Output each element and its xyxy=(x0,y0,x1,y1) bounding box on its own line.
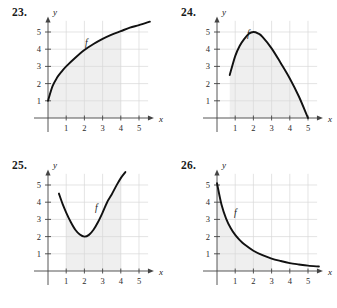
svg-text:2: 2 xyxy=(82,276,86,286)
x-axis-label: x xyxy=(158,267,163,277)
svg-text:5: 5 xyxy=(37,180,41,190)
svg-text:5: 5 xyxy=(306,123,310,133)
y-axis-label: y xyxy=(221,7,226,17)
svg-text:4: 4 xyxy=(37,44,42,54)
curve-label-f: f xyxy=(95,203,99,213)
svg-text:4: 4 xyxy=(288,123,293,133)
y-axis-label: y xyxy=(52,7,57,17)
panel-25: 25. 1234512345xyf xyxy=(0,153,168,307)
svg-text:4: 4 xyxy=(206,197,211,207)
svg-text:2: 2 xyxy=(37,232,41,242)
svg-text:4: 4 xyxy=(288,276,293,286)
svg-text:5: 5 xyxy=(206,27,210,37)
svg-text:3: 3 xyxy=(100,123,104,133)
panel-26: 26. 1234512345xyf xyxy=(169,153,337,307)
svg-text:2: 2 xyxy=(206,232,210,242)
y-axis-label: y xyxy=(221,160,226,170)
svg-text:1: 1 xyxy=(64,123,68,133)
svg-text:1: 1 xyxy=(206,249,210,259)
plot-24: 1234512345xyf xyxy=(169,0,337,154)
svg-text:1: 1 xyxy=(233,276,237,286)
svg-text:4: 4 xyxy=(206,44,211,54)
svg-text:3: 3 xyxy=(269,123,273,133)
chart-svg: 1234512345xyf xyxy=(0,153,168,307)
svg-text:5: 5 xyxy=(137,123,141,133)
x-axis-label: x xyxy=(158,114,163,124)
x-axis-label: x xyxy=(327,267,332,277)
plot-23: 1234512345xyf xyxy=(0,0,168,154)
panel-23: 23. 1234512345xyf xyxy=(0,0,168,154)
svg-text:2: 2 xyxy=(206,79,210,89)
svg-text:1: 1 xyxy=(206,96,210,106)
y-axis-label: y xyxy=(52,160,57,170)
svg-text:1: 1 xyxy=(37,96,41,106)
plot-25: 1234512345xyf xyxy=(0,153,168,307)
svg-text:2: 2 xyxy=(251,123,255,133)
svg-text:3: 3 xyxy=(269,276,273,286)
curve-label-f: f xyxy=(234,208,238,218)
svg-text:3: 3 xyxy=(100,276,104,286)
x-axis-label: x xyxy=(327,114,332,124)
svg-text:2: 2 xyxy=(37,79,41,89)
svg-text:1: 1 xyxy=(37,249,41,259)
svg-text:5: 5 xyxy=(37,27,41,37)
chart-svg: 1234512345xyf xyxy=(169,153,337,307)
chart-svg: 1234512345xyf xyxy=(169,0,337,154)
svg-text:5: 5 xyxy=(306,276,310,286)
svg-text:4: 4 xyxy=(37,197,42,207)
svg-text:5: 5 xyxy=(206,180,210,190)
svg-text:2: 2 xyxy=(82,123,86,133)
svg-text:3: 3 xyxy=(206,214,210,224)
svg-text:3: 3 xyxy=(206,61,210,71)
svg-text:5: 5 xyxy=(137,276,141,286)
figure-sheet: 23. 1234512345xyf 24. 1234512345xyf 25. … xyxy=(0,0,337,308)
svg-text:1: 1 xyxy=(64,276,68,286)
svg-text:1: 1 xyxy=(233,123,237,133)
svg-text:2: 2 xyxy=(251,276,255,286)
plot-26: 1234512345xyf xyxy=(169,153,337,307)
svg-text:3: 3 xyxy=(37,214,41,224)
panel-24: 24. 1234512345xyf xyxy=(169,0,337,154)
chart-svg: 1234512345xyf xyxy=(0,0,168,154)
svg-text:4: 4 xyxy=(119,123,124,133)
svg-text:3: 3 xyxy=(37,61,41,71)
svg-text:4: 4 xyxy=(119,276,124,286)
